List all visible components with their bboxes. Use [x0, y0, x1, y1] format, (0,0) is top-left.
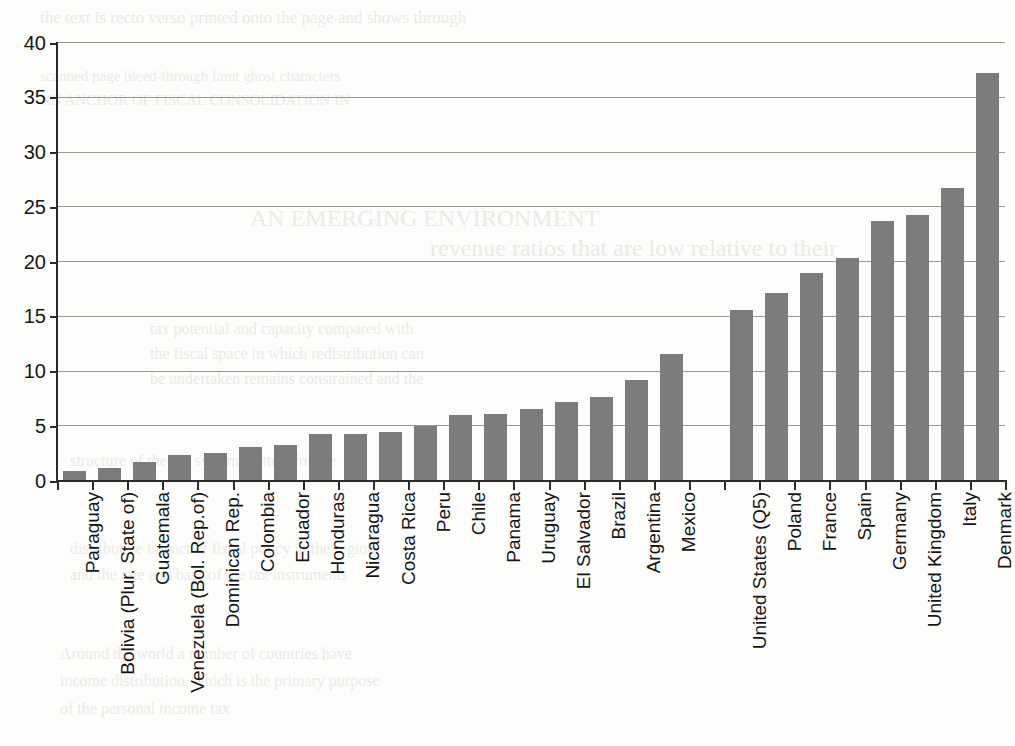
- bar: [414, 426, 437, 480]
- x-tick-label: Poland: [785, 492, 804, 551]
- bar: [309, 434, 332, 480]
- x-tick-label: Nicaragua: [363, 492, 382, 579]
- x-tick-label: Mexico: [679, 492, 698, 552]
- y-tick-label: 5: [35, 414, 46, 437]
- y-tick-label: 10: [24, 360, 46, 383]
- y-tick-label: 20: [24, 250, 46, 273]
- bar: [765, 293, 788, 480]
- bar: [449, 415, 472, 480]
- x-tick-label: Colombia: [258, 492, 277, 572]
- bar: [484, 414, 507, 480]
- x-tick-label: Bolivia (Plur. State of): [118, 492, 137, 675]
- x-tick-label: Denmark: [995, 492, 1014, 569]
- bar: [274, 445, 297, 480]
- y-axis: 0510152025303540: [56, 42, 58, 481]
- x-tick-mark: [1005, 480, 1007, 490]
- bar: [871, 221, 894, 481]
- x-tick-label: Costa Rica: [399, 492, 418, 585]
- bar: [976, 73, 999, 480]
- bar: [941, 188, 964, 480]
- x-tick-label: Spain: [855, 492, 874, 541]
- x-tick-label: Panama: [504, 492, 523, 563]
- x-tick-label: Paraguay: [83, 492, 102, 573]
- y-tick-mark: [50, 316, 58, 318]
- x-tick-label: Argentina: [644, 492, 663, 573]
- bar: [98, 468, 121, 480]
- bar: [204, 453, 227, 480]
- y-tick-label: 35: [24, 86, 46, 109]
- bar: [800, 273, 823, 480]
- y-tick-mark: [50, 43, 58, 45]
- y-tick-mark: [50, 426, 58, 428]
- bar: [590, 397, 613, 480]
- x-tick-label: Venezuela (Bol. Rep.of): [188, 492, 207, 693]
- y-tick-label: 40: [24, 31, 46, 54]
- x-tick-label: Germany: [890, 492, 909, 570]
- bar: [133, 462, 156, 480]
- x-tick-label: Italy: [960, 492, 979, 527]
- x-axis-tick-labels: ParaguayBolivia (Plur. State of)Guatemal…: [57, 492, 1005, 746]
- y-tick-label: 30: [24, 141, 46, 164]
- y-tick-mark: [50, 97, 58, 99]
- bar: [63, 471, 86, 480]
- y-tick-mark: [50, 207, 58, 209]
- bar: [555, 402, 578, 480]
- x-tick-label: Peru: [434, 492, 453, 532]
- y-tick-label: 0: [35, 469, 46, 492]
- bar: [660, 354, 683, 480]
- x-tick-label: Ecuador: [293, 492, 312, 563]
- y-tick-mark: [50, 152, 58, 154]
- bar: [836, 258, 859, 480]
- y-tick-label: 25: [24, 195, 46, 218]
- bar: [379, 432, 402, 480]
- y-tick-mark: [50, 262, 58, 264]
- bar: [906, 215, 929, 480]
- x-tick-label: France: [820, 492, 839, 551]
- x-tick-label: El Salvador: [574, 492, 593, 589]
- x-tick-label: United States (Q5): [750, 492, 769, 649]
- x-tick-label: Guatemala: [153, 492, 172, 585]
- x-tick-label: Brazil: [609, 492, 628, 540]
- x-tick-label: Honduras: [328, 492, 347, 574]
- x-axis: [56, 480, 1005, 482]
- x-tick-label: United Kingdom: [925, 492, 944, 627]
- bar: [520, 409, 543, 480]
- y-tick-label: 15: [24, 305, 46, 328]
- bar: [239, 447, 262, 480]
- y-tick-mark: [50, 371, 58, 373]
- bar: [625, 380, 648, 480]
- bar: [168, 455, 191, 480]
- x-tick-label: Dominican Rep.: [223, 492, 242, 627]
- x-tick-label: Chile: [469, 492, 488, 535]
- bar-series: [57, 42, 1005, 480]
- bar: [344, 434, 367, 480]
- x-tick-label: Uruguay: [539, 492, 558, 564]
- bar: [730, 310, 753, 480]
